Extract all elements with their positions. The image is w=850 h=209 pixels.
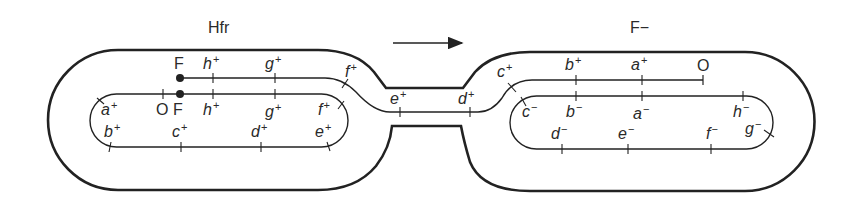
recipient-cell-title: F− [630,20,649,36]
label-d-plus-bridge: d+ [458,91,474,107]
label-c-minus: c− [522,104,537,120]
transferred-dna-strand [180,78,703,112]
label-f-transferred: F [174,56,184,72]
label-a-plus: a+ [101,102,117,118]
label-f-plus-transferred: f+ [345,64,357,80]
label-e-plus: e+ [315,124,331,140]
f-factor-dot-chromosome [176,90,184,98]
label-c-plus-recipient: c+ [497,64,512,80]
label-e-minus: e− [618,126,634,142]
label-b-plus: b+ [104,124,120,140]
label-a-minus: a− [633,106,649,122]
diagram-graphics [0,0,850,209]
label-h-minus: h− [733,104,749,120]
label-f-plus: f+ [318,102,330,118]
label-f-chromosome: F [173,102,183,118]
label-e-plus-bridge: e+ [390,91,406,107]
label-a-plus-recipient: a+ [631,57,647,73]
label-g-plus: g+ [265,104,281,120]
hfr-cell-title: Hfr [208,20,229,36]
label-origin-recipient: O [697,58,709,74]
conjugation-diagram: Hfr F− F h+ g+ f+ O F h+ g+ f+ a+ b+ c+ … [0,0,850,209]
label-origin-donor: O [156,102,168,118]
label-g-plus-transferred: g+ [265,56,281,72]
label-d-plus: d+ [251,124,267,140]
f-factor-dot-transferred [176,74,184,82]
label-b-plus-recipient: b+ [565,57,581,73]
label-h-plus: h+ [203,102,219,118]
label-d-minus: d− [551,126,567,142]
label-c-plus: c+ [172,124,187,140]
gene-ticks [97,73,774,154]
label-f-minus: f− [706,126,718,142]
label-h-plus-transferred: h+ [203,56,219,72]
label-b-minus: b− [566,104,582,120]
label-g-minus: g− [745,121,761,137]
